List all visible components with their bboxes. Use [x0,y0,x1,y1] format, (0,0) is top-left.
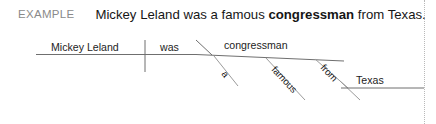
predicate-baseline [196,55,344,62]
example-label: EXAMPLE [18,8,74,20]
diagram-canvas: Mickey Leland was congressman a famous f… [0,28,436,124]
sentence-diagram-figure: EXAMPLE Mickey Leland was a famous congr… [0,0,436,124]
predicate-nominative-label: congressman [224,39,288,51]
article-label: a [219,68,231,80]
predicate-nominative-slant [196,40,212,55]
sentence-text-before: Mickey Leland was a famous [95,7,268,22]
subject-label: Mickey Leland [51,41,119,53]
sentence-text-bold: congressman [268,7,354,22]
example-sentence: Mickey Leland was a famous congressman f… [95,7,425,22]
example-header: EXAMPLE Mickey Leland was a famous congr… [0,2,424,26]
sentence-text-after: from Texas. [354,7,426,22]
preposition-object-label: Texas [356,74,384,86]
verb-label: was [159,41,179,53]
preposition-label: from [319,62,340,84]
adjective-label: famous [270,64,300,95]
